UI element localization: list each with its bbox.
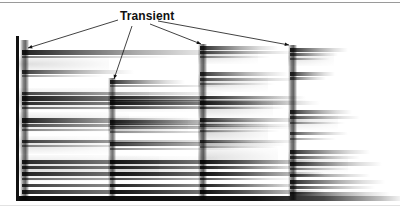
harmonic-partial [200,72,288,76]
harmonic-partial [290,156,360,159]
transient-onset [288,45,297,200]
transient-onset [20,40,29,200]
harmonic-partial [290,122,345,124]
baseline-band [19,196,400,201]
harmonic-partial [200,107,285,109]
transient-onset [108,78,116,200]
harmonic-partial [200,56,270,58]
bottom-divider [0,205,400,206]
harmonic-partial [290,192,390,196]
harmonic-partial [200,78,300,81]
harmonic-partial [200,101,320,105]
harmonic-partial [290,110,352,114]
harmonic-partial [110,85,230,87]
harmonic-partial [22,56,172,58]
harmonic-partial [200,178,295,180]
harmonic-partial [290,150,370,154]
harmonic-partial [22,70,134,74]
harmonic-partial [200,124,295,127]
harmonic-partial [290,168,352,170]
harmonic-partial [290,116,360,119]
harmonic-partial [290,186,375,189]
harmonic-partial [200,83,275,85]
transient-onset [198,44,207,200]
harmonic-partial [200,130,280,132]
harmonic-partial [290,48,348,52]
top-divider [0,2,400,3]
harmonic-partial [200,140,300,143]
harmonic-partial [290,132,348,135]
harmonic-partial [290,174,370,177]
harmonic-partial [200,51,295,54]
harmonic-partial [290,180,385,184]
harmonic-partial [200,146,278,148]
spectrogram-plot-area [19,36,400,203]
harmonic-partial [22,92,227,95]
harmonic-partial [22,75,104,77]
harmonic-partial [110,148,240,150]
harmonic-partial [110,80,185,84]
harmonic-partial [290,162,382,166]
harmonic-partial [290,53,338,56]
harmonic-partial [200,46,278,50]
spectrogram-figure: Transient [0,0,400,213]
transient-label: Transient [120,9,174,23]
